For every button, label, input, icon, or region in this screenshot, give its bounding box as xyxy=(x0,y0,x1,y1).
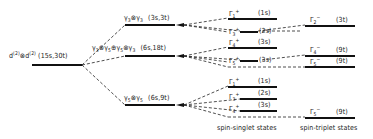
singlet-level-line xyxy=(228,86,277,88)
triplet-state-label: Γ2− xyxy=(310,15,320,25)
intermediate-g3g3-line xyxy=(125,24,175,26)
sup: + xyxy=(236,55,240,61)
intermediate-g3g5-line xyxy=(125,55,175,57)
sup: + xyxy=(236,8,240,14)
energy-level-diagram: d(2)⊗d(2) (15s,30t) γ3⊗γ3 (3s,3t) γ3⊗γ5⊕… xyxy=(0,0,373,139)
singlet-state-count: (3s) xyxy=(259,57,272,64)
root-count: (15s,30t) xyxy=(38,52,68,60)
intermediate-count: (3s,3t) xyxy=(148,14,169,22)
sup: + xyxy=(236,76,240,82)
intermediate-g3g5-label: γ3⊗γ5⊕γ5⊗γ3 (6s,18t) xyxy=(92,45,166,53)
singlet-level-line xyxy=(228,18,277,20)
singlet-level-line xyxy=(240,98,277,100)
root-label: d(2)⊗d(2) (15s,30t) xyxy=(9,51,68,60)
sup: + xyxy=(236,103,240,109)
root-sup-2: (2) xyxy=(29,50,36,56)
singlet-state-count: (3s) xyxy=(258,102,271,109)
sub: 3 xyxy=(140,17,143,23)
sup: − xyxy=(317,56,321,62)
sup: + xyxy=(236,26,240,32)
singlet-state-count: (1s) xyxy=(258,78,271,85)
intermediate-g5g5-line xyxy=(125,104,175,106)
sup: − xyxy=(317,44,321,50)
sup: − xyxy=(317,14,321,20)
sup: + xyxy=(236,37,240,43)
intermediate-count: (6s,9t) xyxy=(148,94,169,102)
singlet-state-label: Γ5+ xyxy=(229,56,239,66)
intermediate-count: (6s,18t) xyxy=(140,44,165,52)
root-sup: (2) xyxy=(13,50,20,56)
singlet-level-line xyxy=(240,60,258,62)
triplet-level-line xyxy=(305,117,355,119)
triplet-column-label: spin-triplet states xyxy=(300,125,357,132)
triplet-state-count: (9t) xyxy=(336,109,348,116)
triplet-state-count: (9t) xyxy=(336,58,348,65)
triplet-state-label: Γ4− xyxy=(310,45,320,55)
sub: 5 xyxy=(140,97,143,103)
singlet-state-count: (2s) xyxy=(259,28,272,35)
intermediate-g5g5-label: γ5⊗γ5 (6s,9t) xyxy=(124,95,169,103)
sub: 3 xyxy=(132,47,135,53)
singlet-state-count: (3s) xyxy=(258,39,271,46)
singlet-state-label: Γ4+ xyxy=(229,104,239,114)
triplet-state-count: (9t) xyxy=(336,47,348,54)
sup: − xyxy=(317,106,321,112)
singlet-state-label: Γ3+ xyxy=(229,27,239,37)
sup: + xyxy=(236,91,240,97)
singlet-state-count: (1s) xyxy=(258,10,271,17)
singlet-level-line xyxy=(240,31,258,33)
singlet-level-line xyxy=(240,110,277,112)
intermediate-g3g3-label: γ3⊗γ3 (3s,3t) xyxy=(124,15,169,23)
triplet-level-line xyxy=(305,25,355,27)
singlet-state-label: Γ3+ xyxy=(229,92,239,102)
triplet-level-line xyxy=(305,66,355,68)
singlet-state-count: (2s) xyxy=(258,90,271,97)
singlet-column-label: spin-singlet states xyxy=(217,125,277,132)
triplet-state-count: (3t) xyxy=(336,17,348,24)
root-level-line xyxy=(32,64,82,66)
singlet-level-line xyxy=(228,47,277,49)
triplet-state-label: Γ5− xyxy=(310,107,320,117)
